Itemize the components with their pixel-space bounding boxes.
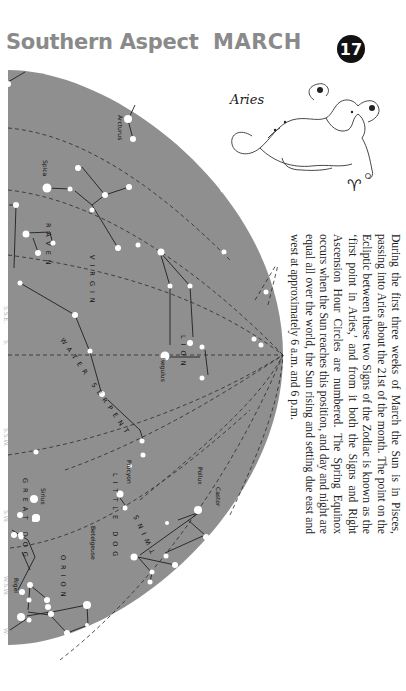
- star-name-label: Sirius: [40, 488, 47, 505]
- page-title: Southern Aspect: [6, 30, 198, 54]
- description-block: During the first three weeks of March th…: [292, 234, 402, 534]
- constellation-label: ORION: [59, 555, 67, 602]
- aries-symbol-icon: ♈: [347, 176, 361, 193]
- month-title: MARCH: [213, 30, 302, 54]
- description-text: During the first three weeks of March th…: [292, 234, 402, 534]
- star-name-label: Castor: [215, 487, 222, 507]
- constellation-label: VIRGIN: [88, 255, 96, 308]
- constellation-label: GREAT DOG: [21, 478, 29, 562]
- star-name-label: Rigel: [12, 578, 20, 593]
- constellation-label: RAVEN: [44, 223, 52, 270]
- page-number-badge: 17: [337, 35, 365, 63]
- constellation-label: LION: [179, 335, 187, 371]
- star-chart: VIRGINRAVENWATER SERPENTLIONLITTLE DOGGR…: [0, 60, 300, 660]
- star-name-label: Regulus: [159, 358, 167, 382]
- star-name-label: Spica: [41, 160, 49, 177]
- star-name-label: Procyon: [125, 460, 133, 484]
- star-name-label: Arcturus: [117, 115, 124, 140]
- star-name-label: Betelgeuse: [89, 526, 97, 560]
- star-name-label: Pollux: [197, 467, 204, 485]
- constellation-label: LITTLE DOG: [111, 473, 119, 561]
